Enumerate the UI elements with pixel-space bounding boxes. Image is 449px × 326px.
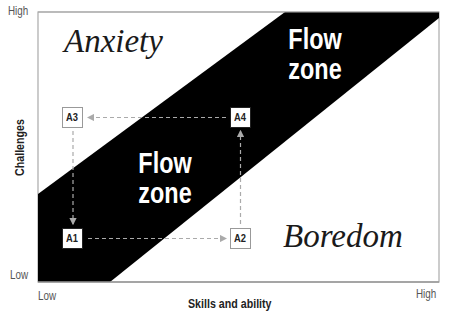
x-axis-low-label: Low <box>38 289 56 303</box>
flow-zone-label-lower: Flow zone <box>126 148 204 208</box>
node-a2-label: A2 <box>235 229 247 248</box>
flow-zone-upper-line2: zone <box>276 54 354 84</box>
node-a2: A2 <box>230 228 251 249</box>
y-axis-high-label: High <box>8 4 28 18</box>
x-axis-title: Skills and ability <box>188 296 272 311</box>
boredom-label: Boredom <box>283 218 403 255</box>
x-axis-high-label: High <box>416 287 436 301</box>
node-a1: A1 <box>62 228 83 249</box>
flow-zone-label-upper: Flow zone <box>276 24 354 84</box>
anxiety-label: Anxiety <box>64 23 163 60</box>
flow-zone-lower-line2: zone <box>126 178 204 208</box>
flow-zone-diagram: High Low Low High Skills and ability Cha… <box>0 0 449 326</box>
node-a3: A3 <box>62 107 83 128</box>
y-axis-low-label: Low <box>10 268 28 282</box>
node-a4: A4 <box>230 107 251 128</box>
y-axis-title: Challenges <box>12 119 27 176</box>
node-a1-label: A1 <box>67 229 79 248</box>
node-a4-label: A4 <box>235 108 247 127</box>
flow-zone-lower-line1: Flow <box>126 148 204 178</box>
flow-zone-upper-line1: Flow <box>276 24 354 54</box>
node-a3-label: A3 <box>67 108 79 127</box>
